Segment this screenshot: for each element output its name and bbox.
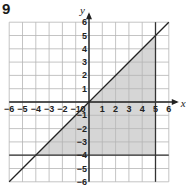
x-tick-label: 1 [100, 104, 105, 114]
x-axis-arrow-icon [172, 99, 179, 105]
y-tick-label: 4 [82, 44, 87, 54]
x-axis-label: x [180, 97, 186, 109]
y-tick-label: −1 [77, 110, 87, 120]
x-tick-label: −6 [4, 104, 14, 114]
y-tick-label: −4 [77, 150, 87, 160]
x-tick-label: −5 [17, 104, 27, 114]
y-tick-label: 5 [82, 31, 87, 41]
x-tick-label: 3 [126, 104, 131, 114]
x-tick-label: 5 [153, 104, 158, 114]
x-tick-label: −4 [31, 104, 41, 114]
y-tick-label: 1 [82, 84, 87, 94]
y-tick-label: 3 [82, 57, 87, 67]
y-tick-label: −5 [77, 164, 87, 174]
y-tick-label: 2 [82, 70, 87, 80]
coordinate-graph: −6−5−4−3−2−10123456−6−5−4−3−2−1123456xy [0, 0, 186, 189]
x-tick-label: −3 [44, 104, 54, 114]
x-tick-label: 2 [113, 104, 118, 114]
y-tick-label: 6 [82, 17, 87, 27]
x-tick-label: 6 [166, 104, 171, 114]
x-tick-label: −2 [57, 104, 67, 114]
x-tick-label: 4 [140, 104, 145, 114]
y-tick-label: −2 [77, 124, 87, 134]
y-axis-label: y [79, 4, 85, 16]
y-tick-label: −3 [77, 137, 87, 147]
y-tick-label: −6 [77, 177, 87, 187]
